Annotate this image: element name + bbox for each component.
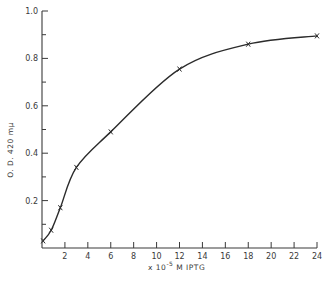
data-point-x-marker [178, 67, 182, 72]
data-point-x-marker [74, 165, 78, 170]
x-axis-label-suffix: M IPTG [173, 263, 205, 272]
y-tick-label: 0.6 [25, 102, 38, 111]
y-tick-label: 0.4 [25, 149, 38, 158]
data-markers [41, 33, 319, 243]
x-tick-label: 4 [85, 252, 90, 261]
x-axis-label-exponent: -5 [166, 260, 173, 267]
data-point-x-marker [49, 228, 53, 233]
y-tick-label: 1.0 [25, 7, 38, 16]
x-tick-label: 20 [266, 252, 276, 261]
axes [42, 11, 317, 248]
x-tick-label: 22 [289, 252, 299, 261]
data-point-x-marker [109, 129, 113, 134]
y-tick-label: 0.2 [25, 197, 38, 206]
y-tick-label: 0.8 [25, 54, 38, 63]
x-tick-label: 2 [62, 252, 67, 261]
data-curve [43, 36, 317, 241]
x-tick-label: 10 [151, 252, 161, 261]
x-tick-label: 6 [108, 252, 113, 261]
chart: 0.20.40.60.81.0 24681012141618202224 O. … [0, 0, 333, 286]
x-axis-label: x 10-5 M IPTG [148, 260, 205, 272]
x-axis-label-prefix: x 10 [148, 263, 166, 272]
x-tick-label: 12 [174, 252, 184, 261]
x-tick-label: 18 [243, 252, 253, 261]
y-axis-label: O. D. 420 mμ [6, 122, 15, 178]
x-tick-label: 16 [220, 252, 230, 261]
x-axis-ticks: 24681012141618202224 [62, 242, 322, 261]
x-tick-label: 14 [197, 252, 207, 261]
x-tick-label: 8 [131, 252, 136, 261]
x-tick-label: 24 [312, 252, 322, 261]
y-axis-ticks: 0.20.40.60.81.0 [25, 7, 48, 224]
